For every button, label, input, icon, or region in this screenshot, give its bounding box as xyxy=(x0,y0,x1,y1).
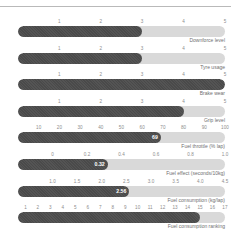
axis-tick-label: 80 xyxy=(181,123,186,132)
axis-tick-label: 2.5 xyxy=(123,177,130,186)
bar-row: 1.01.52.02.53.03.54.04.52.56Fuel consump… xyxy=(0,177,231,204)
axis-tick-labels: 1234567891011121314151617 xyxy=(18,203,225,212)
top-divider xyxy=(0,6,231,7)
axis-tick-label: 30 xyxy=(77,123,82,132)
axis-tick-label: 2 xyxy=(99,97,102,106)
axis-tick-label: 90 xyxy=(202,123,207,132)
axis-tick-label: 12 xyxy=(160,203,165,212)
axis-tick-label: 4 xyxy=(182,17,185,26)
axis-tick-label: 3.0 xyxy=(148,177,155,186)
axis-tick-label: 16 xyxy=(210,203,215,212)
axis-tick-label: 20 xyxy=(57,123,62,132)
axis-tick-label: 4 xyxy=(182,97,185,106)
axis-tick-labels: 00.20.40.60.81.0 xyxy=(18,150,225,159)
bar-row: 12345Grip level xyxy=(0,97,231,124)
axis-tick-label: 1.0 xyxy=(222,150,229,159)
axis-tick-label: 0.6 xyxy=(153,150,160,159)
axis-tick-label: 70 xyxy=(160,123,165,132)
axis-tick-label: 1 xyxy=(24,203,27,212)
bar-value-label: 2.56 xyxy=(116,186,129,197)
bar-fill xyxy=(18,186,129,197)
axis-tick-labels: 12345 xyxy=(18,44,225,53)
bar-track xyxy=(18,53,225,64)
axis-tick-label: 5 xyxy=(224,17,227,26)
axis-tick-label: 0.2 xyxy=(84,150,91,159)
axis-tick-label: 2 xyxy=(37,203,40,212)
axis-tick-label: 50 xyxy=(119,123,124,132)
axis-tick-label: 11 xyxy=(148,203,153,212)
bar-fill xyxy=(18,26,142,37)
bar-row: 00.20.40.60.81.00.32Fuel effect (seconds… xyxy=(0,150,231,177)
axis-tick-label: 1 xyxy=(58,97,61,106)
axis-tick-label: 13 xyxy=(172,203,177,212)
axis-tick-label: 5 xyxy=(74,203,77,212)
axis-tick-label: 0.8 xyxy=(187,150,194,159)
axis-tick-label: 17 xyxy=(222,203,227,212)
axis-tick-label: 4 xyxy=(182,70,185,79)
axis-tick-label: 8 xyxy=(111,203,114,212)
axis-tick-label: 4.0 xyxy=(197,177,204,186)
bar-track xyxy=(18,106,225,117)
axis-tick-label: 4 xyxy=(62,203,65,212)
axis-tick-label: 3.5 xyxy=(172,177,179,186)
axis-tick-labels: 12345 xyxy=(18,97,225,106)
axis-tick-label: 1.0 xyxy=(49,177,56,186)
axis-tick-label: 100 xyxy=(221,123,229,132)
axis-tick-label: 1.5 xyxy=(74,177,81,186)
axis-tick-label: 40 xyxy=(98,123,103,132)
axis-tick-label: 0.4 xyxy=(118,150,125,159)
axis-tick-labels: 102030405060708090100 xyxy=(18,123,225,132)
axis-tick-label: 3 xyxy=(141,44,144,53)
bar-row: 12345Tyre usage xyxy=(0,44,231,71)
axis-tick-label: 3 xyxy=(141,97,144,106)
axis-tick-label: 5 xyxy=(224,44,227,53)
track-characteristics-bar-chart: 12345Downforce level12345Tyre usage12345… xyxy=(0,0,231,230)
axis-tick-label: 0 xyxy=(51,150,54,159)
bar-row: 10203040506070809010069Fuel throttle (% … xyxy=(0,123,231,150)
bar-value-label: 69 xyxy=(152,132,161,143)
bar-row: 12345Brake wear xyxy=(0,70,231,97)
axis-tick-label: 2 xyxy=(99,44,102,53)
bar-track xyxy=(18,79,225,90)
axis-tick-label: 1 xyxy=(58,44,61,53)
bar-fill xyxy=(18,106,184,117)
bar-row-label: Fuel consumption ranking xyxy=(168,223,225,230)
axis-tick-labels: 12345 xyxy=(18,70,225,79)
axis-tick-label: 15 xyxy=(197,203,202,212)
bar-value-label: 0.32 xyxy=(95,159,108,170)
axis-tick-label: 1 xyxy=(58,17,61,26)
axis-tick-label: 2 xyxy=(99,70,102,79)
bar-track xyxy=(18,212,225,223)
axis-tick-label: 9 xyxy=(124,203,127,212)
bar-row: 1234567891011121314151617Fuel consumptio… xyxy=(0,203,231,230)
axis-tick-label: 5 xyxy=(224,97,227,106)
axis-tick-label: 7 xyxy=(99,203,102,212)
axis-tick-label: 4.5 xyxy=(222,177,229,186)
axis-tick-label: 3 xyxy=(141,70,144,79)
axis-tick-label: 4 xyxy=(182,44,185,53)
axis-tick-label: 3 xyxy=(49,203,52,212)
axis-tick-labels: 1.01.52.02.53.03.54.04.5 xyxy=(18,177,225,186)
bar-fill xyxy=(18,212,200,223)
axis-tick-label: 14 xyxy=(185,203,190,212)
bar-track xyxy=(18,26,225,37)
bar-fill xyxy=(18,79,225,90)
bar-track xyxy=(18,132,225,143)
axis-tick-label: 10 xyxy=(135,203,140,212)
bar-fill xyxy=(18,53,142,64)
axis-tick-label: 2 xyxy=(99,17,102,26)
bar-row: 12345Downforce level xyxy=(0,17,231,44)
axis-tick-label: 2.0 xyxy=(98,177,105,186)
bar-track xyxy=(18,159,225,170)
axis-tick-label: 6 xyxy=(87,203,90,212)
axis-tick-label: 3 xyxy=(141,17,144,26)
bar-fill xyxy=(18,132,161,143)
axis-tick-labels: 12345 xyxy=(18,17,225,26)
axis-tick-label: 1 xyxy=(58,70,61,79)
axis-tick-label: 5 xyxy=(224,70,227,79)
axis-tick-label: 60 xyxy=(140,123,145,132)
axis-tick-label: 10 xyxy=(36,123,41,132)
